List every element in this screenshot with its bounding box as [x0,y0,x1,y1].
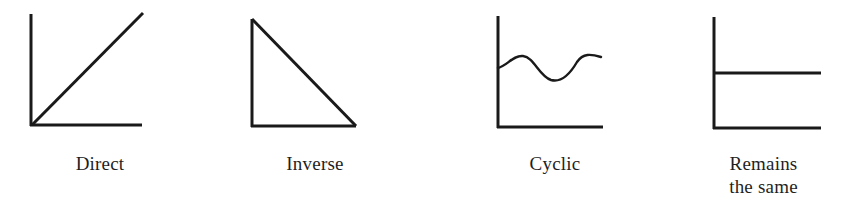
panel-direct: Direct [0,0,200,213]
figure-sheet: Direct Inverse Cyclic [0,0,847,213]
inverse-trend-line [252,19,356,126]
panel-label-direct: Direct [0,152,200,175]
inverse-relationship-graph [215,0,415,150]
direct-relationship-graph [0,0,200,150]
panel-label-cyclic: Cyclic [455,152,655,175]
panel-remains-the-same: Remains the same [680,0,847,213]
panel-label-inverse: Inverse [215,152,415,175]
constant-relationship-graph [680,0,847,150]
cyclic-relationship-graph [455,0,655,150]
panel-cyclic: Cyclic [455,0,655,213]
cyclic-trend-curve [498,55,601,81]
panel-inverse: Inverse [215,0,415,213]
direct-trend-line [32,13,143,125]
panel-label-remains-the-same: Remains the same [680,152,847,198]
